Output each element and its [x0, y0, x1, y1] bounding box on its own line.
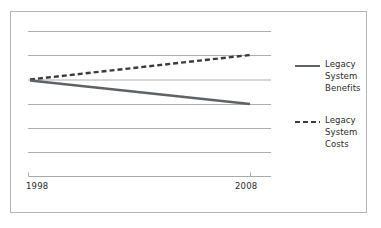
- legend-label-line-2: System: [325, 126, 365, 138]
- legend-entry-legacy-system-costs[interactable]: Legacy System Costs: [295, 114, 365, 151]
- legend-label-legacy-system-benefits: Legacy System Benefits: [325, 58, 365, 95]
- x-tick-label-1998: 1998: [26, 181, 48, 191]
- legend-label-line-3: Costs: [325, 138, 365, 150]
- dashed-line-swatch: [295, 121, 320, 123]
- legend-label-line-1: Legacy: [325, 58, 365, 70]
- chart-screenshot: 1998 2008 Legacy System Benefits Legacy …: [0, 0, 381, 228]
- legend-label-legacy-system-costs: Legacy System Costs: [325, 114, 365, 151]
- chart-legend: Legacy System Benefits Legacy System Cos…: [295, 58, 365, 169]
- x-tick-label-2008: 2008: [235, 181, 257, 191]
- solid-line-swatch: [295, 65, 320, 67]
- legend-label-line-2: System: [325, 70, 365, 82]
- legend-label-line-3: Benefits: [325, 82, 365, 94]
- legend-entry-legacy-system-benefits[interactable]: Legacy System Benefits: [295, 58, 365, 95]
- legend-label-line-1: Legacy: [325, 114, 365, 126]
